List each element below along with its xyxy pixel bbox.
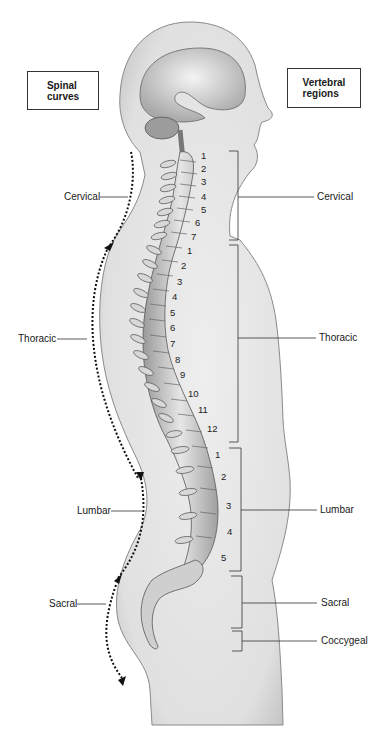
cervical-vertebra-number: 7: [191, 232, 196, 242]
thoracic-vertebra-number: 4: [172, 292, 177, 302]
thoracic-vertebra-number: 12: [207, 424, 218, 434]
thoracic-vertebra-number: 8: [175, 355, 180, 365]
cervical-vertebra-number: 4: [201, 192, 206, 202]
title-line: curves: [47, 91, 79, 102]
curve-label-sacral: Sacral: [49, 598, 77, 610]
curve-label-thoracic: Thoracic: [18, 333, 56, 345]
vertebral-regions-title: Vertebralregions: [287, 68, 361, 108]
thoracic-vertebra-number: 2: [181, 261, 186, 271]
cervical-vertebra-number: 1: [201, 151, 206, 161]
cerebellum: [145, 117, 179, 139]
lumbar-vertebra-number: 5: [221, 553, 226, 563]
spine-diagram: [0, 0, 381, 740]
region-label-cervical: Cervical: [317, 191, 353, 203]
cervical-vertebra-number: 6: [195, 218, 200, 228]
thoracic-vertebra-number: 5: [170, 308, 175, 318]
lumbar-vertebra-number: 3: [226, 501, 231, 511]
region-label-thoracic: Thoracic: [319, 332, 357, 344]
lumbar-vertebra-number: 1: [215, 450, 220, 460]
curve-label-cervical: Cervical: [64, 191, 100, 203]
region-label-lumbar: Lumbar: [320, 504, 354, 516]
thoracic-vertebra-number: 6: [170, 323, 175, 333]
body-silhouette: [100, 22, 291, 725]
thoracic-vertebra-number: 3: [177, 277, 182, 287]
thoracic-vertebra-number: 1: [187, 246, 192, 256]
cervical-vertebra-number: 2: [201, 164, 206, 174]
cervical-vertebra-number: 5: [201, 205, 206, 215]
title-line: Vertebral: [303, 77, 346, 88]
lumbar-vertebra-number: 4: [227, 527, 232, 537]
title-line: regions: [303, 88, 346, 99]
lumbar-vertebra-number: 2: [221, 472, 226, 482]
thoracic-vertebra-number: 10: [188, 389, 199, 399]
curve-label-lumbar: Lumbar: [77, 505, 111, 517]
spinal-curves-title: Spinalcurves: [27, 71, 99, 110]
thoracic-vertebra-number: 9: [180, 370, 185, 380]
title-line: Spinal: [47, 80, 79, 91]
region-label-sacral: Sacral: [321, 597, 349, 609]
cervical-vertebra-number: 3: [201, 177, 206, 187]
region-label-coccygeal: Coccygeal: [321, 635, 368, 647]
thoracic-vertebra-number: 11: [198, 405, 208, 415]
thoracic-vertebra-number: 7: [170, 339, 175, 349]
